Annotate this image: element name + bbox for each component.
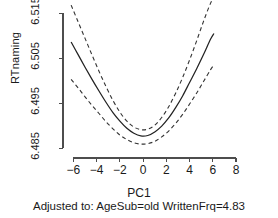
x-tick-marks (73, 158, 236, 162)
x-tick-label: 0 (131, 163, 155, 177)
axes-group (63, 13, 236, 158)
effect-plot: RTnaming 6.4856.4956.5056.515 −6−4−20246… (0, 0, 278, 218)
y-tick-label: 6.485 (29, 124, 41, 168)
curve-group (71, 0, 214, 144)
y-tick-label: 6.505 (29, 34, 41, 78)
x-tick-label: −4 (85, 163, 109, 177)
x-tick-label: 6 (201, 163, 225, 177)
y-tick-label: 6.495 (29, 79, 41, 123)
x-tick-label: 2 (154, 163, 178, 177)
plot-subtitle: Adjusted to: AgeSub=old WrittenFrq=4.83 (0, 200, 278, 212)
y-tick-marks (59, 13, 63, 148)
x-tick-label: 4 (178, 163, 202, 177)
x-axis-title: PC1 (0, 186, 278, 200)
x-tick-label: −6 (61, 163, 85, 177)
x-tick-label: 8 (224, 163, 248, 177)
y-tick-label: 6.515 (29, 0, 41, 33)
x-tick-label: −2 (108, 163, 132, 177)
confidence-band-curve (71, 0, 214, 130)
fitted-effect-curve (71, 33, 214, 136)
